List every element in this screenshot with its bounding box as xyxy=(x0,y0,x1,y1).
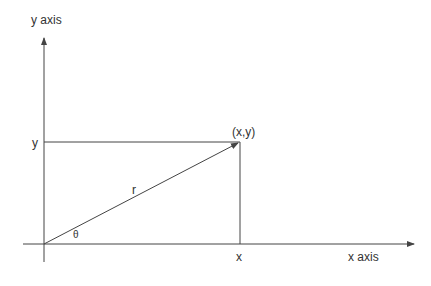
theta-label: θ xyxy=(73,229,79,240)
point-label: (x,y) xyxy=(232,125,255,139)
y-value-label: y xyxy=(32,136,38,150)
polar-diagram xyxy=(0,0,431,286)
x-value-label: x xyxy=(236,250,242,264)
y-axis-label: y axis xyxy=(31,13,62,27)
radius-label: r xyxy=(132,183,136,197)
x-axis-label: x axis xyxy=(348,250,379,264)
